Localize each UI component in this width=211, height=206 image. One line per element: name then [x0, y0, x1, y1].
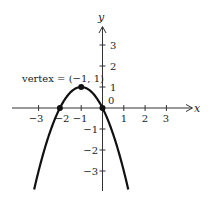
x-tick-label: 1 [121, 113, 127, 124]
x-tick-label: 2 [142, 113, 148, 124]
y-tick-label: −3 [83, 166, 98, 177]
y-tick-label: 3 [110, 40, 116, 51]
origin-label: 0 [108, 95, 114, 106]
x-tick-label: −3 [29, 113, 44, 124]
y-tick-label: −1 [83, 124, 98, 135]
parabola-chart: −3 −2 −1 1 2 3 x 1 2 3 −1 −2 −3 y 0 vert… [0, 0, 211, 206]
y-axis-label: y [97, 11, 105, 24]
x-axis-label: x [194, 102, 201, 115]
x-tick-label: −1 [73, 113, 88, 124]
y-tick-label: 2 [110, 61, 116, 72]
x-axis: −3 −2 −1 1 2 3 x [12, 102, 201, 124]
x-tick-label: 3 [163, 113, 169, 124]
y-tick-label: 1 [110, 82, 116, 93]
y-tick-label: −2 [83, 145, 98, 156]
vertex-point [78, 84, 84, 90]
vertex-annotation: vertex = (−1, 1) [21, 73, 104, 84]
x-intercept-left-point [57, 105, 63, 111]
x-intercept-origin-point [100, 105, 106, 111]
